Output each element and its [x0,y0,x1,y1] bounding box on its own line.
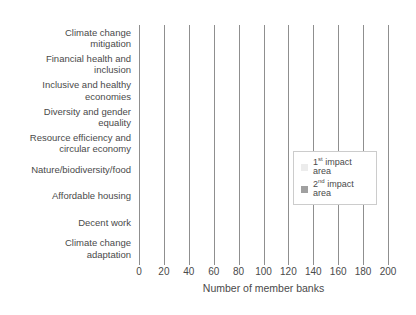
category-label: Affordable housing [0,183,131,209]
x-tick-label: 40 [183,266,194,277]
bar-row [139,236,388,262]
bar-row [139,78,388,104]
plot-area [139,25,388,262]
x-tick-label: 0 [136,266,142,277]
x-axis-ticks: 020406080100120140160180200 [139,266,388,278]
bar-row [139,209,388,235]
category-label: Nature/biodiversity/food [0,157,131,183]
category-label: Resource efficiency and circular economy [0,130,131,156]
legend: 1st impact area2nd impact area [293,151,377,205]
legend-swatch [301,164,308,171]
legend-label: 2nd impact area [313,180,370,198]
legend-item: 1st impact area [301,158,370,176]
legend-item: 2nd impact area [301,180,370,198]
x-tick-label: 120 [280,266,297,277]
bar-row [139,104,388,130]
x-tick-label: 140 [305,266,322,277]
bar-rows [139,25,388,262]
x-tick-label: 20 [158,266,169,277]
x-tick-label: 200 [380,266,397,277]
x-tick-label: 100 [255,266,272,277]
legend-label: 1st impact area [313,158,370,176]
x-tick-label: 160 [330,266,347,277]
category-label: Climate change adaptation [0,236,131,262]
bar-row [139,25,388,51]
bar-row [139,51,388,77]
category-label: Diversity and gender equality [0,104,131,130]
category-label: Financial health and inclusion [0,51,131,77]
category-labels: Climate change mitigationFinancial healt… [0,25,131,262]
category-label: Inclusive and healthy economies [0,78,131,104]
x-tick-label: 180 [355,266,372,277]
x-tick-label: 80 [233,266,244,277]
gridline [388,25,389,265]
impact-areas-chart: Climate change mitigationFinancial healt… [0,0,416,315]
x-axis-title: Number of member banks [139,282,388,294]
x-tick-label: 60 [208,266,219,277]
legend-swatch [301,186,308,193]
category-label: Decent work [0,209,131,235]
category-label: Climate change mitigation [0,25,131,51]
